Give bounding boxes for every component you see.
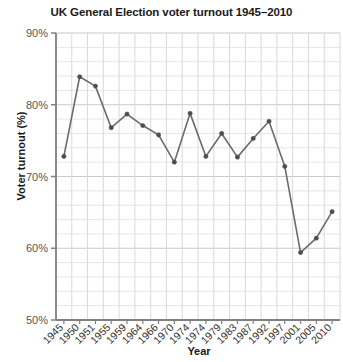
data-point-marker [220,131,224,135]
chart-container: UK General Election voter turnout 1945–2… [0,0,343,362]
data-point-marker [188,111,192,115]
data-point-marker [109,126,113,130]
data-point-marker [267,119,271,123]
x-axis-title: Year [55,345,343,357]
data-point-marker [125,112,129,116]
data-point-marker [156,133,160,137]
data-point-marker [330,210,334,214]
y-tick-label: 80% [26,99,48,111]
data-point-marker [141,123,145,127]
y-tick-label: 60% [26,242,48,254]
y-tick-label: 70% [26,171,48,183]
data-point-marker [93,84,97,88]
data-point-marker [251,136,255,140]
y-tick-label: 90% [26,27,48,39]
data-point-marker [235,155,239,159]
data-point-marker [78,75,82,79]
data-point-marker [204,154,208,158]
line-chart-plot: 50%60%70%80%90%1945195019511955195919641… [0,0,343,362]
data-point-marker [172,160,176,164]
data-point-marker [298,250,302,254]
y-axis-title: Voter turnout (%) [15,91,27,221]
y-tick-label: 50% [26,314,48,326]
data-point-marker [283,164,287,168]
data-point-marker [62,154,66,158]
data-point-marker [314,236,318,240]
